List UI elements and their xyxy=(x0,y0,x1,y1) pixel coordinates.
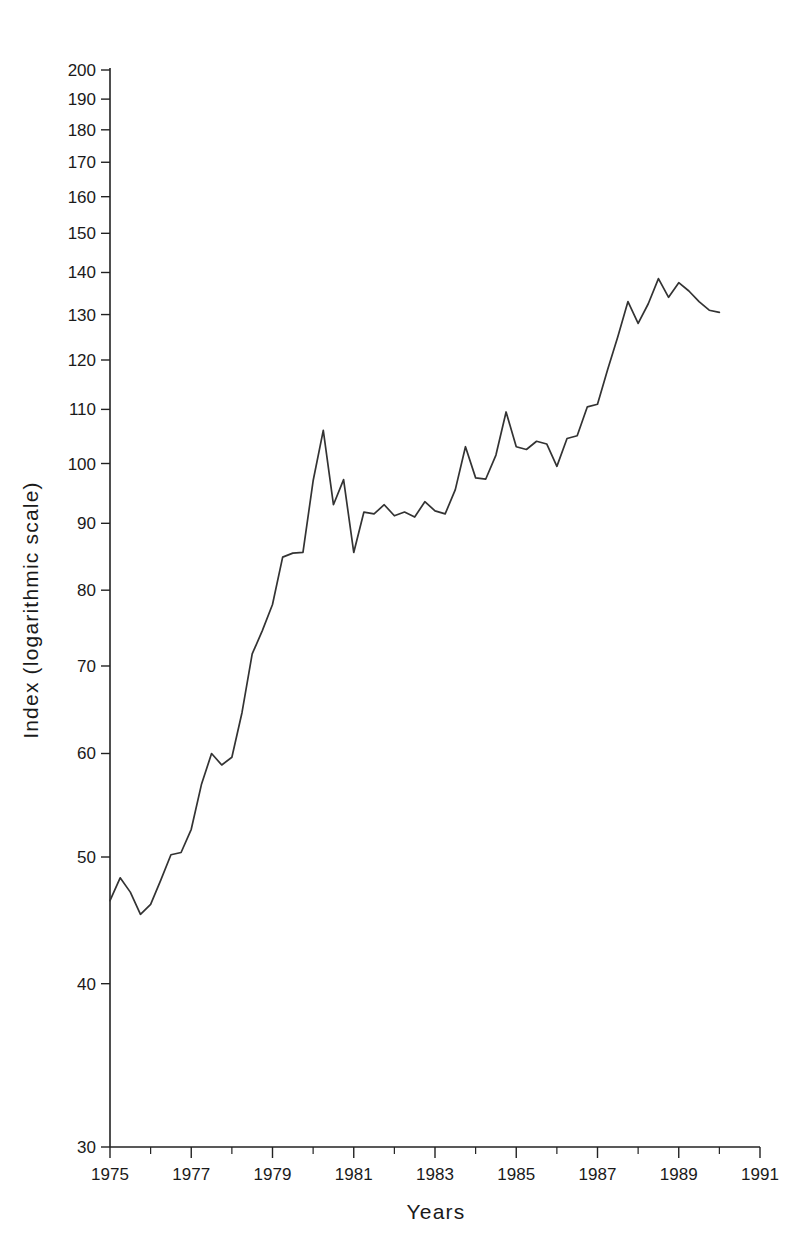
x-tick-label: 1977 xyxy=(172,1165,210,1184)
y-tick-label: 140 xyxy=(68,263,96,282)
data-line-index xyxy=(110,279,719,915)
x-tick-label: 1989 xyxy=(660,1165,698,1184)
y-tick-label: 170 xyxy=(68,153,96,172)
y-tick-label: 200 xyxy=(68,61,96,80)
y-tick-label: 130 xyxy=(68,306,96,325)
x-tick-label: 1975 xyxy=(91,1165,129,1184)
y-tick-label: 150 xyxy=(68,224,96,243)
x-tick-label: 1981 xyxy=(335,1165,373,1184)
x-tick-label: 1991 xyxy=(741,1165,779,1184)
line-chart-canvas: 3040506070809010011012013014015016017018… xyxy=(0,0,812,1256)
x-tick-label: 1979 xyxy=(254,1165,292,1184)
y-tick-label: 50 xyxy=(77,848,96,867)
x-tick-label: 1985 xyxy=(497,1165,535,1184)
y-axis-title: Index (logarithmic scale) xyxy=(19,481,42,739)
x-tick-label: 1987 xyxy=(579,1165,617,1184)
y-tick-label: 90 xyxy=(77,514,96,533)
data-series-index xyxy=(110,279,719,915)
y-tick-label: 60 xyxy=(77,744,96,763)
y-axis: 3040506070809010011012013014015016017018… xyxy=(68,61,110,1157)
y-tick-label: 100 xyxy=(68,455,96,474)
chart-figure: 3040506070809010011012013014015016017018… xyxy=(0,0,812,1256)
y-tick-label: 180 xyxy=(68,121,96,140)
y-tick-label: 70 xyxy=(77,657,96,676)
y-tick-label: 80 xyxy=(77,581,96,600)
x-axis: 197519771979198119831985198719891991 xyxy=(91,1147,779,1184)
y-tick-label: 40 xyxy=(77,975,96,994)
y-tick-label: 120 xyxy=(68,351,96,370)
y-tick-label: 110 xyxy=(69,400,96,419)
y-tick-label: 190 xyxy=(68,90,96,109)
x-tick-label: 1983 xyxy=(416,1165,454,1184)
y-tick-label: 160 xyxy=(68,188,96,207)
y-tick-label: 30 xyxy=(77,1138,96,1157)
x-axis-title: Years xyxy=(407,1200,466,1223)
